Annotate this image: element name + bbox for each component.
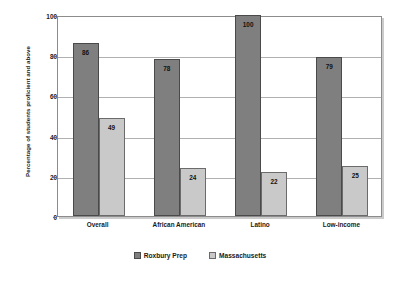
- x-tick-label: African American: [153, 221, 206, 228]
- chart-legend: Roxbury PrepMassachusetts: [0, 252, 400, 259]
- bar-group: 8649: [58, 17, 139, 216]
- y-tick-label: 0: [23, 214, 57, 221]
- bar[interactable]: 24: [180, 168, 206, 216]
- y-tick-label: 20: [23, 173, 57, 180]
- y-tick-label: 40: [23, 133, 57, 140]
- y-tick-label: 80: [23, 53, 57, 60]
- y-tick-mark: [53, 217, 57, 218]
- x-tick-label: Low-income: [323, 221, 360, 228]
- bar-value-label: 78: [155, 65, 179, 72]
- bar-value-label: 25: [343, 172, 367, 179]
- legend-label: Massachusetts: [219, 252, 266, 259]
- bar[interactable]: 86: [73, 43, 99, 216]
- bar[interactable]: 25: [342, 166, 368, 216]
- y-tick-label: 60: [23, 93, 57, 100]
- x-tick-label: Latino: [251, 221, 270, 228]
- y-tick-label: 100: [23, 13, 57, 20]
- plot-frame: 86497824100227925: [57, 16, 382, 217]
- legend-item[interactable]: Roxbury Prep: [134, 252, 187, 259]
- bar[interactable]: 78: [154, 59, 180, 216]
- dark-gray-swatch: [134, 252, 141, 259]
- y-axis-tick-group: 020406080100: [17, 16, 57, 217]
- bar[interactable]: 79: [316, 57, 342, 216]
- legend-item[interactable]: Massachusetts: [209, 252, 266, 259]
- bar-value-label: 24: [181, 174, 205, 181]
- bar-value-label: 22: [262, 178, 286, 185]
- plot-area: 86497824100227925: [58, 17, 381, 216]
- bar-chart-figure: Percentage of students proficient and ab…: [0, 0, 400, 284]
- bar[interactable]: 49: [99, 118, 125, 216]
- bar-group: 7925: [302, 17, 383, 216]
- bar-value-label: 100: [236, 21, 260, 28]
- bar-value-label: 79: [317, 63, 341, 70]
- bar[interactable]: 22: [261, 172, 287, 216]
- x-tick-label: Overall: [87, 221, 109, 228]
- legend-label: Roxbury Prep: [144, 252, 187, 259]
- x-axis-tick-group: OverallAfrican AmericanLatinoLow-income: [57, 221, 382, 237]
- bar-group: 7824: [139, 17, 220, 216]
- bar-value-label: 49: [100, 124, 124, 131]
- bar-group: 10022: [221, 17, 302, 216]
- bar-value-label: 86: [74, 49, 98, 56]
- bar[interactable]: 100: [235, 15, 261, 216]
- light-gray-swatch: [209, 252, 216, 259]
